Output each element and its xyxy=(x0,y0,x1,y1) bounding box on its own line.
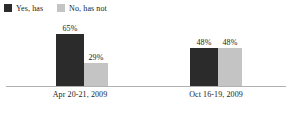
bar-value-label-yes-has-apr: 65% xyxy=(63,24,78,33)
bar-value-label-yes-has-oct: 48% xyxy=(197,38,212,47)
bar-wrap-yes-has-apr: 65% xyxy=(56,20,84,86)
x-axis-baseline xyxy=(6,86,286,87)
bar-no-has-not-apr[interactable] xyxy=(84,63,108,86)
bar-yes-has-oct[interactable] xyxy=(190,48,218,86)
bar-yes-has-apr[interactable] xyxy=(56,34,84,86)
grouped-bar-chart: Yes, has No, has not 65% 29% xyxy=(0,0,292,113)
bar-no-has-not-oct[interactable] xyxy=(218,48,242,86)
legend-item-no-has-not: No, has not xyxy=(57,4,107,13)
legend-label-yes-has: Yes, has xyxy=(16,4,43,13)
x-axis-tick-label-oct-16-19-2009: Oct 16-19, 2009 xyxy=(166,90,266,100)
bar-group-bars: 48% 48% xyxy=(190,20,242,86)
bar-value-label-no-has-not-apr: 29% xyxy=(89,53,104,62)
bar-wrap-yes-has-oct: 48% xyxy=(190,20,218,86)
bar-wrap-no-has-not-apr: 29% xyxy=(84,20,108,86)
bar-wrap-no-has-not-oct: 48% xyxy=(218,20,242,86)
bar-value-label-no-has-not-oct: 48% xyxy=(223,38,238,47)
legend-label-no-has-not: No, has not xyxy=(69,4,107,13)
legend-swatch-icon-no-has-not xyxy=(57,4,65,12)
legend-swatch-icon-yes-has xyxy=(4,4,12,12)
chart-legend: Yes, has No, has not xyxy=(4,2,107,14)
plot-area: 65% 29% 48% 48% xyxy=(0,20,292,87)
legend-item-yes-has: Yes, has xyxy=(4,4,43,13)
bar-group-bars: 65% 29% xyxy=(56,20,108,86)
x-axis-tick-label-apr-20-21-2009: Apr 20-21, 2009 xyxy=(30,90,130,100)
